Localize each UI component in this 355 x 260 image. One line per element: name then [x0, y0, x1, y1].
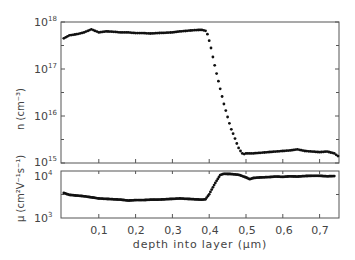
- xtick-0: 0,1: [90, 224, 108, 237]
- data-point: [235, 142, 238, 145]
- data-point: [239, 150, 242, 153]
- xtick-2: 0,3: [164, 224, 182, 237]
- figure: 1018 1017 1016 1015 104 103 n (cm⁻³) µ (…: [0, 0, 355, 260]
- data-point: [210, 47, 213, 50]
- ytick-top-1: 1017: [34, 62, 57, 76]
- xtick-5: 0,6: [275, 224, 293, 237]
- data-point: [213, 64, 216, 67]
- bottom-panel-frame: [61, 171, 339, 218]
- bottom-y-tick-labels: 104 103: [34, 169, 53, 225]
- data-point: [230, 128, 233, 131]
- data-point: [212, 56, 215, 59]
- data-point: [217, 80, 220, 83]
- data-point: [215, 72, 218, 75]
- y-axis-title-bottom: µ (cm²V⁻¹s⁻¹): [15, 155, 26, 222]
- data-point: [234, 137, 237, 140]
- ytick-top-2: 1016: [34, 109, 57, 123]
- data-point: [221, 95, 224, 98]
- xtick-1: 0,2: [127, 224, 145, 237]
- xtick-4: 0,5: [238, 224, 256, 237]
- top-axis-ticks: [61, 22, 339, 163]
- ytick-top-0: 1018: [34, 15, 57, 29]
- bottom-data-series: [62, 172, 335, 202]
- data-point: [223, 103, 226, 106]
- data-point: [337, 155, 340, 158]
- x-tick-labels: 0,1 0,2 0,3 0,4 0,5 0,6 0,7: [90, 224, 329, 237]
- data-point: [224, 109, 227, 112]
- data-point: [208, 193, 211, 196]
- top-panel-frame: [61, 22, 339, 163]
- bottom-axis-ticks: [61, 171, 339, 218]
- data-point: [228, 122, 231, 125]
- xtick-3: 0,4: [201, 224, 219, 237]
- x-axis-title: depth into layer (µm): [133, 238, 267, 251]
- ytick-top-3: 1015: [34, 155, 57, 169]
- data-point: [219, 87, 222, 90]
- top-data-series: [62, 28, 339, 158]
- ytick-bottom-0: 104: [34, 169, 53, 183]
- data-point: [204, 29, 207, 32]
- y-axis-title-top: n (cm⁻³): [15, 88, 26, 130]
- top-y-tick-labels: 1018 1017 1016 1015: [34, 15, 57, 169]
- data-point: [206, 33, 209, 36]
- data-point: [208, 39, 211, 42]
- data-point: [226, 116, 229, 119]
- data-point: [333, 175, 336, 178]
- data-point: [232, 132, 235, 135]
- data-point: [237, 147, 240, 150]
- ytick-bottom-1: 103: [34, 211, 52, 225]
- xtick-6: 0,7: [311, 224, 329, 237]
